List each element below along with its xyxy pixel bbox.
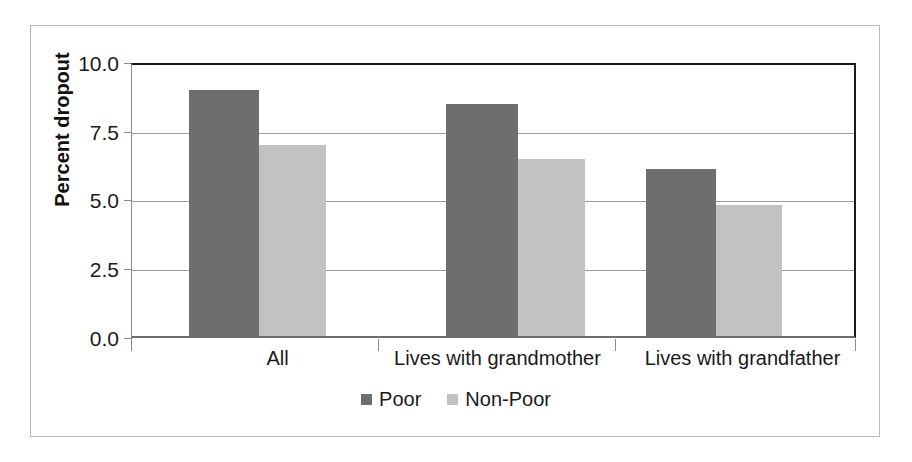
y-tick-label: 0.0 xyxy=(90,327,119,351)
chart-legend: Poor Non-Poor xyxy=(0,388,912,411)
bar-grandfather-non-poor xyxy=(716,205,782,336)
y-tick-label: 7.5 xyxy=(90,121,119,145)
bar-all-non-poor xyxy=(259,145,326,336)
y-axis-tick xyxy=(124,63,131,64)
legend-swatch-icon xyxy=(447,394,458,405)
bar-grandmother-poor xyxy=(446,104,518,336)
y-axis-tick xyxy=(124,132,131,133)
chart-figure: Percent dropout 10.0 7.5 5.0 2.5 0.0 xyxy=(0,0,912,462)
category-label-all: All xyxy=(175,347,380,370)
plot-area xyxy=(131,63,856,338)
legend-label: Non-Poor xyxy=(465,388,551,411)
bar-all-poor xyxy=(189,90,259,336)
x-axis-tick-start xyxy=(131,339,132,351)
y-tick-label: 2.5 xyxy=(90,258,119,282)
bar-grandfather-poor xyxy=(646,169,716,336)
y-axis-tick xyxy=(124,338,131,339)
y-axis-tick xyxy=(124,269,131,270)
y-tick-label: 10.0 xyxy=(78,52,119,76)
legend-item-poor: Poor xyxy=(361,388,421,411)
category-label-grandfather: Lives with grandfather xyxy=(620,347,865,370)
bar-grandmother-non-poor xyxy=(518,159,585,336)
legend-item-non-poor: Non-Poor xyxy=(447,388,551,411)
y-axis-title: Percent dropout xyxy=(51,30,74,230)
legend-label: Poor xyxy=(379,388,421,411)
y-tick-label: 5.0 xyxy=(90,189,119,213)
legend-swatch-icon xyxy=(361,394,372,405)
category-label-grandmother: Lives with grandmother xyxy=(375,347,620,370)
y-axis-tick xyxy=(124,200,131,201)
